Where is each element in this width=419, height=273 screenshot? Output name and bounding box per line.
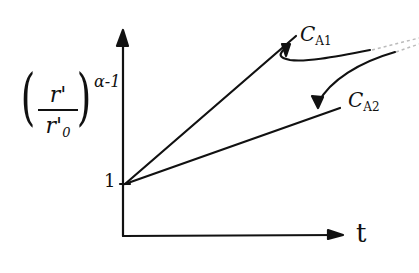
y-label-denominator-main: r' bbox=[46, 113, 63, 138]
y-intercept-label: 1 bbox=[104, 170, 115, 191]
y-label-numerator: r' bbox=[38, 82, 78, 111]
series-label-ca1: CA1 bbox=[300, 22, 332, 48]
series-label-ca1-sub: A1 bbox=[315, 34, 331, 48]
x-axis bbox=[123, 235, 340, 236]
y-axis-arrowhead bbox=[117, 30, 128, 46]
x-axis-label: t bbox=[356, 218, 366, 248]
y-label-denominator: r'0 bbox=[38, 111, 78, 140]
series-label-ca2-sub: A2 bbox=[363, 100, 379, 114]
y-label-close-paren: ) bbox=[77, 66, 92, 128]
series-label-ca1-main: C bbox=[300, 22, 315, 46]
annotation-arrow-ca2-head bbox=[312, 96, 323, 108]
annotation-arrow-ca1-tail bbox=[372, 38, 419, 50]
series-line-ca1 bbox=[125, 36, 296, 184]
annotation-arrow-ca1-head bbox=[282, 44, 290, 56]
annotation-arrow-ca2-tail bbox=[396, 44, 419, 52]
y-label-fraction: r' r'0 bbox=[38, 82, 78, 140]
y-label-open-paren: ( bbox=[21, 66, 36, 128]
series-label-ca2: CA2 bbox=[348, 88, 380, 114]
series-label-ca2-main: C bbox=[348, 88, 363, 112]
y-label-denominator-sub: 0 bbox=[62, 125, 70, 140]
y-axis-label: ( r' r'0 ) α-1 bbox=[8, 72, 118, 152]
y-label-exponent: α-1 bbox=[94, 72, 120, 91]
annotation-arrow-ca1 bbox=[281, 46, 370, 61]
series-line-ca2 bbox=[125, 108, 340, 184]
x-axis-arrowhead bbox=[328, 230, 343, 239]
